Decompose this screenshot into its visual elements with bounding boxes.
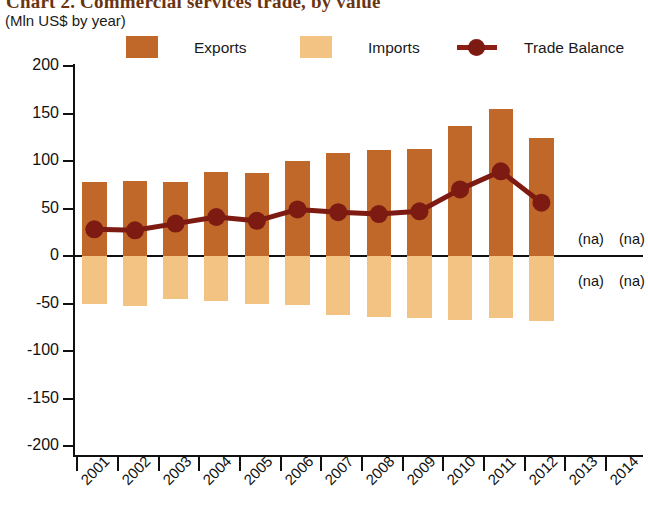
x-tick-label: 2003 xyxy=(159,452,195,488)
x-tick-mark xyxy=(564,456,566,471)
bar-exports xyxy=(285,161,309,256)
x-tick-mark xyxy=(320,456,322,471)
bar-imports xyxy=(367,256,391,317)
x-tick-label: 2007 xyxy=(321,452,357,488)
plot-area: 200 150 100 50 0 -50 -100 -150 -200 2001… xyxy=(0,0,648,511)
bar-imports xyxy=(448,256,472,320)
bar-imports xyxy=(245,256,269,304)
x-tick-label: 2014 xyxy=(606,452,642,488)
bar-imports xyxy=(489,256,513,318)
bar-exports xyxy=(82,182,106,256)
bar-imports xyxy=(529,256,553,321)
y-tick-label: -150 xyxy=(2,389,59,407)
y-tick-mark xyxy=(63,303,74,305)
x-tick-label: 2013 xyxy=(565,452,601,488)
x-tick-label: 2002 xyxy=(118,452,154,488)
bar-imports xyxy=(204,256,228,301)
bar-exports xyxy=(448,126,472,256)
x-tick-label: 2005 xyxy=(240,452,276,488)
x-tick-mark xyxy=(117,456,119,471)
y-tick-label: 200 xyxy=(2,56,59,74)
y-tick-label: 50 xyxy=(2,199,59,217)
bar-exports xyxy=(529,138,553,256)
y-tick-mark xyxy=(63,255,74,257)
bar-imports xyxy=(163,256,187,299)
zero-line xyxy=(73,255,643,257)
x-tick-label: 2008 xyxy=(362,452,398,488)
x-tick-mark xyxy=(483,456,485,471)
x-tick-label: 2001 xyxy=(77,452,113,488)
na-label-2013-above: (na) xyxy=(578,231,604,247)
y-tick-label: -50 xyxy=(2,294,59,312)
y-tick-label: -200 xyxy=(2,436,59,454)
na-label-2013-below: (na) xyxy=(578,273,604,289)
y-tick-label: 100 xyxy=(2,151,59,169)
bar-exports xyxy=(326,153,350,256)
bar-exports xyxy=(204,172,228,256)
x-tick-mark xyxy=(442,456,444,471)
y-tick-label: -100 xyxy=(2,341,59,359)
y-tick-mark xyxy=(63,160,74,162)
bar-imports xyxy=(82,256,106,304)
x-tick-label: 2006 xyxy=(281,452,317,488)
x-tick-label: 2009 xyxy=(403,452,439,488)
bar-exports xyxy=(407,149,431,256)
y-tick-mark xyxy=(63,445,74,447)
x-tick-mark xyxy=(198,456,200,471)
x-tick-mark xyxy=(402,456,404,471)
chart-figure: Chart 2. Commercial services trade, by v… xyxy=(0,0,648,511)
bar-imports xyxy=(123,256,147,306)
x-tick-label: 2012 xyxy=(525,452,561,488)
x-tick-mark xyxy=(361,456,363,471)
y-tick-mark xyxy=(63,398,74,400)
x-tick-mark xyxy=(524,456,526,471)
x-tick-mark xyxy=(158,456,160,471)
y-tick-label: 0 xyxy=(2,246,59,264)
bar-exports xyxy=(123,181,147,256)
na-label-2014-above: (na) xyxy=(619,231,645,247)
bar-imports xyxy=(407,256,431,318)
bar-exports xyxy=(489,109,513,256)
y-tick-mark xyxy=(63,65,74,67)
x-tick-label: 2004 xyxy=(199,452,235,488)
x-tick-mark xyxy=(280,456,282,471)
y-tick-label: 150 xyxy=(2,104,59,122)
bar-exports xyxy=(245,173,269,256)
bar-imports xyxy=(285,256,309,305)
x-tick-label: 2010 xyxy=(443,452,479,488)
bar-exports xyxy=(163,182,187,256)
y-tick-mark xyxy=(63,350,74,352)
y-tick-mark xyxy=(63,113,74,115)
x-tick-mark xyxy=(239,456,241,471)
x-tick-mark xyxy=(76,456,78,471)
x-tick-label: 2011 xyxy=(484,453,519,488)
y-tick-mark xyxy=(63,208,74,210)
bar-exports xyxy=(367,150,391,256)
na-label-2014-below: (na) xyxy=(619,273,645,289)
bar-imports xyxy=(326,256,350,315)
x-tick-mark xyxy=(605,456,607,471)
